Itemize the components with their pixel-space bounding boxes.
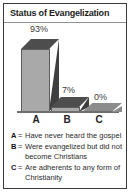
category-label-a: A — [26, 114, 46, 125]
legend-key-a: A — [11, 131, 18, 141]
bar-a-front-face — [21, 49, 50, 112]
legend-key-c: C — [11, 163, 18, 173]
legend-equals-c: = — [18, 163, 25, 173]
bar-value-label-b: 7% — [62, 85, 75, 95]
bar-value-label-a: 93% — [30, 24, 48, 34]
legend-text-c: Are adherents to any form of Christianit… — [25, 163, 123, 183]
bar-value-label-c: 0% — [94, 92, 107, 102]
chart-legend: A = Have never heard the gospel B = Were… — [11, 131, 123, 184]
legend-key-b: B — [11, 142, 18, 152]
legend-equals-a: = — [18, 131, 25, 141]
legend-equals-b: = — [18, 142, 25, 152]
chart-card: Status of Evangelization 93% 7% 0% A B C — [3, 3, 127, 189]
legend-text-b: Were evangelized but did not become Chri… — [25, 142, 123, 162]
bar-a-side-face — [49, 39, 59, 111]
chart-title: Status of Evangelization — [10, 8, 109, 18]
legend-item-c: C = Are adherents to any form of Christi… — [11, 163, 123, 183]
legend-text-a: Have never heard the gospel — [25, 131, 123, 141]
chart-baseline — [17, 111, 119, 113]
category-label-c: C — [89, 114, 109, 125]
legend-item-b: B = Were evangelized but did not become … — [11, 142, 123, 162]
legend-item-a: A = Have never heard the gospel — [11, 131, 123, 141]
chart-plot-area: 93% 7% 0% A B C — [4, 23, 126, 129]
bar-a-top-face — [21, 39, 59, 49]
category-label-b: B — [57, 114, 77, 125]
